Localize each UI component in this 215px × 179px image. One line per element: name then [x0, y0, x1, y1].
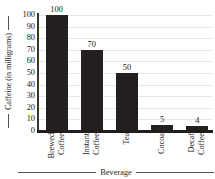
x-axis-title-rule-left	[18, 172, 96, 173]
x-axis-tick-label: Cocoa	[145, 133, 180, 163]
y-axis-tick-label: 0	[31, 127, 35, 135]
y-axis-tick-label: 80	[27, 34, 35, 42]
x-axis-tick-label: Tea	[109, 133, 144, 163]
x-axis-tick-label-word: Coffee	[92, 133, 102, 155]
x-axis-tick-label-word: Decaf	[187, 133, 197, 153]
y-axis-tick-label: 100	[22, 11, 35, 19]
x-axis-tick-labels: BrewedCoffeeInstantCoffeeTeaCocoaDecafCo…	[37, 133, 213, 163]
bar: 50	[116, 73, 138, 131]
x-axis-tick-label-word: Brewed	[47, 133, 57, 158]
y-axis-tick-label: 30	[27, 92, 35, 100]
x-axis-tick-label-word: Coffee	[57, 133, 67, 155]
x-axis-tick-label-word: Cocoa	[157, 133, 167, 154]
y-axis-tick-label: 70	[27, 46, 35, 54]
y-axis-title-label: Caffeine (in milligrams)	[4, 33, 13, 110]
x-axis-title: Beverage	[18, 166, 214, 178]
bar: 100	[46, 15, 68, 131]
x-axis-tick-label: InstantCoffee	[74, 133, 109, 163]
y-axis-tick-label: 40	[27, 80, 35, 88]
y-axis-tick-label: 90	[27, 22, 35, 30]
x-axis-title-rule-right	[136, 172, 214, 173]
x-axis-tick-label: DecafCoffee	[180, 133, 215, 163]
plot-area: 100705054	[37, 15, 213, 131]
bar-value-label: 4	[195, 116, 199, 125]
y-axis-title-rule-top	[8, 16, 9, 30]
caffeine-bar-chart: Caffeine (in milligrams) 100908070605040…	[0, 0, 215, 179]
x-axis-tick-label: BrewedCoffee	[39, 133, 74, 163]
x-axis-title-label: Beverage	[100, 168, 132, 177]
y-axis-tick-labels: 1009080706050403020100	[14, 10, 36, 132]
bar-value-label: 5	[160, 115, 164, 124]
x-axis-tick-label-word: Tea	[122, 133, 132, 145]
y-axis-tick-label: 20	[27, 104, 35, 112]
x-axis-tick-label-word: Instant	[82, 133, 92, 155]
y-axis-line	[37, 13, 39, 132]
bar-value-label: 50	[123, 63, 131, 72]
bar-value-label: 70	[88, 40, 96, 49]
y-axis-tick-label: 10	[27, 115, 35, 123]
x-axis-tick-label-word: Coffee	[197, 133, 207, 155]
bar: 70	[81, 50, 103, 131]
y-axis-title-rule-bottom	[8, 114, 9, 128]
y-axis-tick-label: 50	[27, 69, 35, 77]
y-axis-tick-label: 60	[27, 57, 35, 65]
bar-value-label: 100	[50, 5, 63, 14]
